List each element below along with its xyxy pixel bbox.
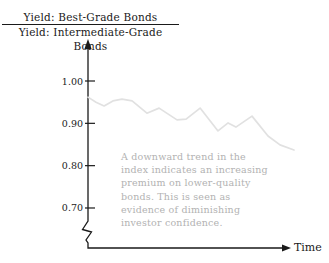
y-tick-label: 1.00 bbox=[40, 75, 83, 88]
bond-yield-ratio-chart: Yield: Best-Grade Bonds Yield: Intermedi… bbox=[0, 0, 329, 263]
x-axis-label: Time bbox=[294, 241, 322, 255]
y-tick-label: 0.80 bbox=[40, 159, 83, 172]
annotation-text: A downward trend in the index indicates … bbox=[121, 150, 281, 229]
x-axis-arrow-icon bbox=[282, 244, 291, 251]
y-tick-label: 0.90 bbox=[40, 117, 83, 130]
y-tick-label: 0.70 bbox=[40, 201, 83, 214]
data-line-yield-ratio bbox=[88, 97, 294, 150]
y-axis-arrow-icon bbox=[84, 39, 91, 49]
